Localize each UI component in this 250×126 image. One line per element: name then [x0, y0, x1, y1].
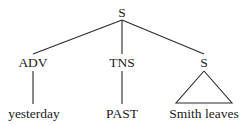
syntax-tree-figure: S ADV TNS S yesterday PAST Smith leaves [0, 0, 250, 126]
leaf-past: PAST [106, 106, 139, 121]
embedded-s-triangle [176, 71, 232, 103]
node-root-s: S [118, 5, 126, 20]
node-embedded-s: S [200, 55, 208, 70]
syntax-tree-canvas: S ADV TNS S yesterday PAST Smith leaves [0, 0, 250, 126]
node-tns: TNS [109, 55, 135, 70]
edge-root-to-adv [33, 20, 122, 54]
leaf-smith-leaves: Smith leaves [169, 106, 238, 121]
edge-root-to-embedded-s [122, 20, 204, 54]
leaf-yesterday: yesterday [8, 106, 60, 121]
node-adv: ADV [18, 55, 47, 70]
